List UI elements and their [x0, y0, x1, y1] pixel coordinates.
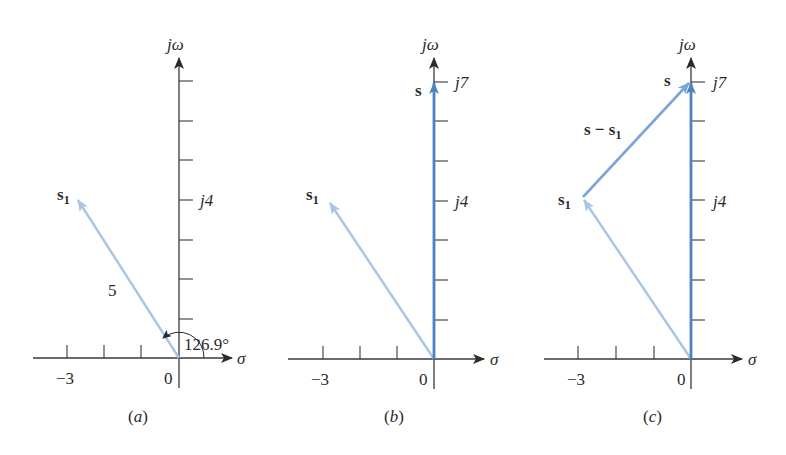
panel-a: jω σ −3 0 j4 s1 5 126.9° (a) [33, 35, 246, 426]
sigma-axis-label: σ [237, 349, 246, 368]
tick-label-neg3: −3 [567, 370, 585, 389]
tick-label-j4: j4 [711, 192, 727, 211]
jw-axis-label: jω [165, 35, 184, 54]
jw-axis-label: jω [677, 35, 696, 54]
sigma-ticks [578, 346, 654, 359]
jw-ticks [691, 82, 705, 320]
vector-s1-label: s1 [57, 185, 70, 207]
vector-s-minus-s1 [583, 83, 689, 197]
tick-label-j4: j4 [453, 192, 469, 211]
jw-axis-label: jω [420, 35, 439, 54]
caption-c: (c) [643, 407, 662, 426]
tick-label-j7: j7 [711, 73, 728, 92]
sigma-ticks [323, 346, 397, 359]
tick-label-origin: 0 [164, 369, 173, 388]
tick-label-j7: j7 [453, 73, 470, 92]
jw-ticks [179, 81, 193, 319]
tick-label-neg3: −3 [311, 370, 329, 389]
vector-s1-label: s1 [306, 185, 319, 207]
vector-s-label: s [415, 81, 422, 100]
tick-label-origin: 0 [677, 370, 686, 389]
panel-b: jω σ −3 0 j4 j7 s s1 (b) [288, 35, 499, 426]
caption-b: (b) [384, 407, 404, 426]
s-plane-vector-figure: jω σ −3 0 j4 s1 5 126.9° (a) jω σ −3 [0, 0, 786, 455]
caption-a: (a) [128, 407, 148, 426]
tick-label-j4: j4 [198, 191, 214, 210]
vector-s1 [78, 200, 179, 358]
sigma-ticks [67, 345, 141, 358]
sigma-axis-label: σ [748, 350, 757, 369]
vector-s1-label: s1 [558, 190, 571, 212]
vector-s-label: s [664, 71, 671, 90]
vector-s-minus-s1-label: s − s1 [584, 120, 621, 142]
sigma-axis-label: σ [490, 350, 499, 369]
magnitude-label: 5 [108, 281, 117, 300]
vector-s1 [584, 200, 691, 359]
tick-label-origin: 0 [419, 370, 428, 389]
angle-label: 126.9° [184, 335, 229, 354]
jw-ticks [434, 82, 448, 320]
tick-label-neg3: −3 [56, 369, 74, 388]
vector-s1 [330, 203, 434, 359]
panel-c: jω σ −3 0 j4 j7 s s1 s − s1 (c) [544, 35, 757, 426]
